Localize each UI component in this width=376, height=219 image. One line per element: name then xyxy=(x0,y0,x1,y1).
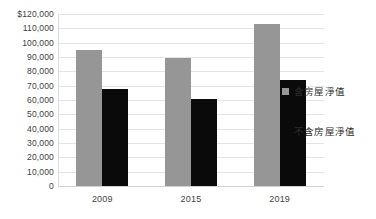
y-axis-tick-label: 10,000 xyxy=(27,167,54,176)
y-axis-tick-label: 80,000 xyxy=(27,67,54,76)
bar xyxy=(254,24,280,186)
y-axis-tick-label: 30,000 xyxy=(27,139,54,148)
legend-item[interactable]: 不含房屋淨值 xyxy=(282,124,376,138)
bar xyxy=(165,58,191,186)
legend: 含房屋淨值不含房屋淨值 xyxy=(282,84,376,164)
y-axis-tick-label: 0 xyxy=(49,182,54,191)
legend-swatch-icon xyxy=(282,128,289,135)
y-axis-tick-label: 70,000 xyxy=(27,81,54,90)
y-axis: $120,000110,000100,00090,00080,00070,000… xyxy=(0,0,57,219)
legend-label: 含房屋淨值 xyxy=(294,84,345,98)
bar-group xyxy=(165,14,217,186)
y-axis-tick-label: 100,000 xyxy=(22,38,54,47)
y-axis-tick-label: 110,000 xyxy=(23,24,54,33)
y-axis-tick-label: 90,000 xyxy=(27,53,54,62)
x-axis-tick-label: 2009 xyxy=(76,187,128,204)
y-axis-tick-label: 50,000 xyxy=(27,110,54,119)
y-axis-tick-label: 60,000 xyxy=(27,96,54,105)
x-axis-tick-label: 2015 xyxy=(165,187,217,204)
bar xyxy=(191,99,217,186)
bar-chart: $120,000110,000100,00090,00080,00070,000… xyxy=(0,0,376,219)
legend-swatch-icon xyxy=(282,88,289,95)
y-axis-tick-label: 20,000 xyxy=(27,153,54,162)
x-axis: 200920152019 xyxy=(58,187,324,209)
y-axis-tick-label: 40,000 xyxy=(27,124,54,133)
bar xyxy=(102,89,128,186)
legend-item[interactable]: 含房屋淨值 xyxy=(282,84,376,98)
legend-label: 不含房屋淨值 xyxy=(294,124,355,138)
bar xyxy=(76,50,102,186)
y-axis-tick-label: $120,000 xyxy=(17,10,54,19)
bar-group xyxy=(76,14,128,186)
x-axis-tick-label: 2019 xyxy=(254,187,306,204)
